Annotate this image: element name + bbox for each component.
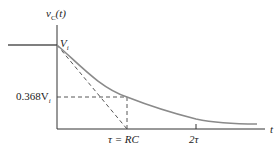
exponential-decay-curve (57, 45, 257, 124)
x-axis-label: t (270, 124, 273, 135)
tau-label: τ = RC (108, 134, 139, 145)
level-0368-label: 0.368Vi (16, 91, 51, 105)
rc-discharge-diagram (0, 0, 277, 150)
initial-voltage-label: Vi (60, 38, 69, 52)
tangent-dashed-line (57, 45, 127, 129)
two-tau-label: 2τ (189, 134, 198, 145)
y-axis-label: vC(t) (46, 8, 66, 22)
